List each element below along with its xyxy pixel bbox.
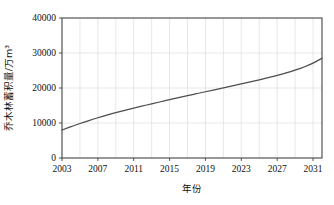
y-tick-label: 40000 [32,13,56,23]
x-tick-label: 2031 [304,164,323,174]
y-axis-title: 乔木林蓄积量/万m³ [3,45,14,131]
x-tick-label: 2019 [196,164,215,174]
x-axis-tick-labels: 20032007201120152019202320272031 [53,164,323,174]
x-tick-label: 2003 [53,164,72,174]
y-axis-tick-labels: 010000200003000040000 [32,13,56,163]
y-tick-label: 10000 [32,118,56,128]
line-chart: 20032007201120152019202320272031 0100002… [0,0,334,205]
y-tick-label: 30000 [32,48,56,58]
y-tick-label: 0 [51,153,56,163]
x-tick-label: 2015 [160,164,179,174]
x-tick-label: 2007 [88,164,107,174]
x-tick-label: 2011 [124,164,143,174]
x-axis-title: 年份 [182,183,202,194]
x-tick-label: 2027 [268,164,287,174]
y-tick-label: 20000 [32,83,56,93]
chart-container: 20032007201120152019202320272031 0100002… [0,0,334,205]
x-tick-label: 2023 [232,164,251,174]
